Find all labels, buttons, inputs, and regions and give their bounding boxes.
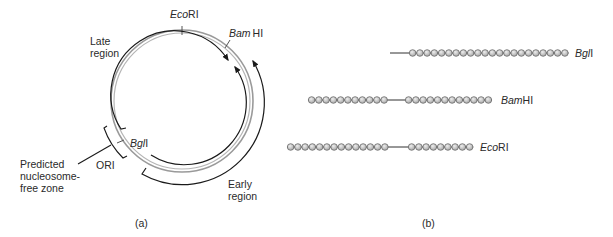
- nucleosome-bead: [459, 144, 466, 151]
- nucleosome-bead: [438, 50, 445, 57]
- nucleosome-bead: [424, 50, 431, 57]
- nucleosome-bead: [452, 144, 459, 151]
- early-region-inner-arc: [151, 67, 246, 165]
- nucleosome-bead: [442, 97, 449, 104]
- nucleosome-bead: [352, 97, 359, 104]
- nucleosome-bead: [309, 144, 316, 151]
- nucleosome-bead: [478, 97, 485, 104]
- nucleosome-bead: [302, 144, 309, 151]
- nucleosome-bead: [408, 144, 415, 151]
- nucleosome-bead: [338, 144, 345, 151]
- label-roman: HI: [253, 27, 264, 39]
- label-roman: I: [145, 137, 148, 149]
- nucleosome-bead: [324, 144, 331, 151]
- nucleosome-bead: [345, 144, 352, 151]
- nucleosome-bead: [409, 50, 416, 57]
- chromatin-row: [287, 144, 473, 151]
- ecori-site-label: EcoRI: [170, 8, 199, 20]
- label-italic: Eco: [480, 141, 498, 153]
- nucleosome-bead: [417, 50, 424, 57]
- label-italic: Eco: [170, 8, 188, 20]
- nucleosome-bead: [437, 144, 444, 151]
- chromatin-row: [390, 50, 569, 57]
- nucleosome-bead: [434, 97, 441, 104]
- nucleosome-bead: [359, 97, 366, 104]
- nucleosome-bead: [485, 97, 492, 104]
- nucleosome-bead: [316, 144, 323, 151]
- nucleosome-bead: [496, 50, 503, 57]
- label-italic: Bam: [229, 27, 251, 39]
- row-label-bgli: BglI: [575, 47, 593, 59]
- nucleosome-bead: [453, 50, 460, 57]
- nucleosome-bead: [446, 50, 453, 57]
- nucleosome-bead: [456, 97, 463, 104]
- nucleosome-bead: [525, 50, 532, 57]
- nucleosome-bead: [374, 144, 381, 151]
- nucleosome-bead: [554, 50, 561, 57]
- nucleosome-bead: [345, 97, 352, 104]
- nucleosome-bead: [337, 97, 344, 104]
- nucleosome-bead: [405, 97, 412, 104]
- ori-label: ORI: [96, 159, 115, 171]
- nucleosome-bead: [323, 97, 330, 104]
- nucleosome-bead: [295, 144, 302, 151]
- nucleosome-bead: [308, 97, 315, 104]
- nucleosome-bead: [475, 50, 482, 57]
- nucleosome-bead: [482, 50, 489, 57]
- nucleosome-bead: [366, 97, 373, 104]
- nucleosome-bead: [466, 144, 473, 151]
- nucleosome-bead: [518, 50, 525, 57]
- nucleosome-bead: [445, 144, 452, 151]
- label-italic: Bam: [501, 94, 523, 106]
- nucleosome-bead: [449, 97, 456, 104]
- nucleosome-bead: [381, 97, 388, 104]
- nucleosome-free-zone-label: Predicted nucleosome- free zone: [20, 158, 80, 194]
- nucleosome-bead: [504, 50, 511, 57]
- label-line: Predicted: [20, 158, 80, 170]
- chromatin-row: [308, 97, 492, 104]
- nucleosome-bead: [416, 144, 423, 151]
- late-region-arc: [111, 31, 228, 129]
- label-roman: RI: [498, 141, 509, 153]
- early-region-label: Early region: [228, 178, 257, 202]
- label-line: Late: [90, 35, 119, 47]
- nucleosome-bead: [360, 144, 367, 151]
- nucleosome-bead: [471, 97, 478, 104]
- label-italic: Bgl: [575, 47, 590, 59]
- label-line: region: [228, 190, 257, 202]
- nucleosome-bead: [316, 97, 323, 104]
- nucleosome-bead: [511, 50, 518, 57]
- label-line: free zone: [20, 182, 80, 194]
- nucleosome-bead: [562, 50, 569, 57]
- label-roman: I: [590, 47, 593, 59]
- nucleosome-bead: [533, 50, 540, 57]
- label-roman: RI: [188, 8, 199, 20]
- nucleosome-bead: [540, 50, 547, 57]
- nucleosome-bead: [420, 97, 427, 104]
- label-line: region: [90, 47, 119, 59]
- nucleosome-bead: [460, 50, 467, 57]
- nucleosome-bead: [463, 97, 470, 104]
- label-roman: HI: [523, 94, 534, 106]
- nucleosome-bead: [353, 144, 360, 151]
- nucleosome-bead: [547, 50, 554, 57]
- label-line: Early: [228, 178, 257, 190]
- bamhi-site-label: BamHI: [229, 27, 263, 39]
- nucleosome-bead: [374, 97, 381, 104]
- nucleosome-bead: [331, 144, 338, 151]
- nucleosome-bead: [467, 50, 474, 57]
- label-line: nucleosome-: [20, 170, 80, 182]
- nucleosome-bead: [430, 144, 437, 151]
- nucleosome-bead: [382, 144, 389, 151]
- nucleosome-bead: [367, 144, 374, 151]
- nucleosome-bead: [330, 97, 337, 104]
- nucleosome-bead: [427, 97, 434, 104]
- nucleosome-bead: [413, 97, 420, 104]
- nucleosome-bead: [431, 50, 438, 57]
- bgli-site-label: BglI: [130, 137, 148, 149]
- genome-ring: [111, 30, 253, 172]
- panel-b-caption: (b): [422, 217, 435, 229]
- nucleosome-bead: [423, 144, 430, 151]
- late-region-label: Late region: [90, 35, 119, 59]
- panel-a-caption: (a): [135, 217, 148, 229]
